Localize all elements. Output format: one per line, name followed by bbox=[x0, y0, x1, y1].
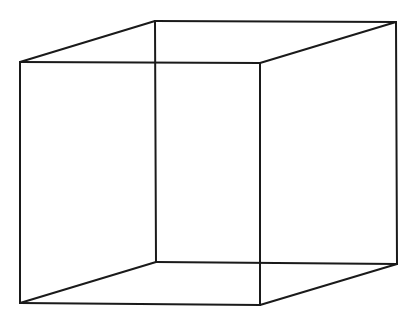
cube-edge-front-bottom-left-to-back-bottom-left bbox=[20, 262, 156, 303]
cube-edge-back-bottom-right-to-back-bottom-left bbox=[156, 262, 397, 264]
cube-edges bbox=[20, 21, 397, 305]
cube-edge-front-bottom-right-to-back-bottom-right bbox=[260, 264, 397, 305]
necker-cube-diagram bbox=[0, 0, 416, 323]
cube-edge-back-bottom-left-to-back-top-left bbox=[155, 21, 156, 262]
cube-edge-front-bottom-right-to-front-bottom-left bbox=[20, 303, 260, 305]
cube-edge-front-top-left-to-front-top-right bbox=[20, 62, 260, 63]
cube-edge-back-top-right-to-back-bottom-right bbox=[396, 22, 397, 264]
cube-edge-front-top-left-to-back-top-left bbox=[20, 21, 155, 62]
cube-edge-back-top-left-to-back-top-right bbox=[155, 21, 396, 22]
cube-edge-front-top-right-to-back-top-right bbox=[260, 22, 396, 63]
